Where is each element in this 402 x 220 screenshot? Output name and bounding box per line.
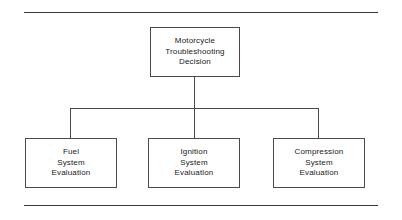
node-root-line-2: Troubleshooting	[165, 47, 224, 58]
connector-drop-ignition	[194, 108, 195, 138]
node-root-line-3: Decision	[179, 57, 211, 68]
connector-drop-fuel	[70, 108, 71, 138]
connector-drop-compression	[318, 108, 319, 138]
node-ignition-line-2: System	[180, 158, 208, 169]
node-fuel-line-3: Evaluation	[52, 168, 91, 179]
node-motorcycle-troubleshooting-decision[interactable]: Motorcycle Troubleshooting Decision	[150, 27, 240, 77]
node-fuel-line-1: Fuel	[63, 147, 79, 158]
decision-tree-figure: Motorcycle Troubleshooting Decision Fuel…	[0, 0, 402, 220]
top-horizontal-rule	[24, 12, 378, 13]
node-root-line-1: Motorcycle	[175, 36, 215, 47]
node-fuel-system-evaluation[interactable]: Fuel System Evaluation	[25, 138, 117, 188]
node-compression-line-2: System	[305, 158, 333, 169]
node-compression-line-3: Evaluation	[300, 168, 339, 179]
node-compression-system-evaluation[interactable]: Compression System Evaluation	[273, 138, 365, 188]
node-ignition-system-evaluation[interactable]: Ignition System Evaluation	[148, 138, 240, 188]
bottom-horizontal-rule	[24, 205, 378, 206]
connector-root-stem	[194, 77, 195, 109]
node-fuel-line-2: System	[57, 158, 85, 169]
node-ignition-line-1: Ignition	[180, 147, 207, 158]
node-compression-line-1: Compression	[295, 147, 344, 158]
node-ignition-line-3: Evaluation	[175, 168, 214, 179]
